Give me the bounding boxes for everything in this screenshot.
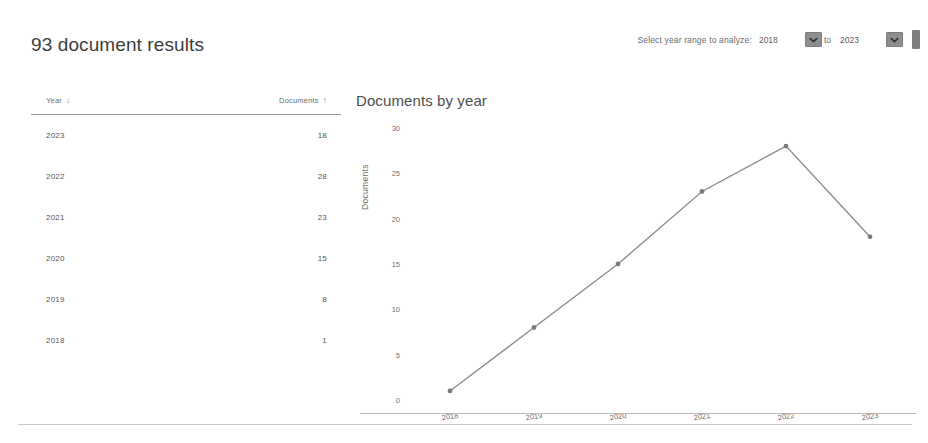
chart-y-tick-label: 5 [396,350,400,359]
table-row[interactable]: 2021 23 [31,197,341,238]
cell-year: 2020 [46,254,65,263]
chart-data-point[interactable] [448,389,453,394]
chart-data-point[interactable] [784,144,789,149]
cell-year: 2021 [46,213,65,222]
cell-documents: 1 [322,336,327,345]
chart-y-axis-label: Documents [360,164,370,210]
table-row[interactable]: 2022 28 [31,156,341,197]
table-row[interactable]: 2023 18 [31,115,341,156]
chart-data-point[interactable] [616,262,621,267]
chart-data-point[interactable] [532,325,537,330]
column-header-documents[interactable]: Documents ↑ [279,96,327,105]
cell-documents: 28 [318,172,327,181]
year-range-selector: Select year range to analyze: 2018 to 20… [637,30,920,49]
year-range-to-label: to [824,35,831,45]
year-range-to-value[interactable]: 2023 [840,35,886,45]
cell-year: 2018 [46,336,65,345]
chart-y-tick-label: 10 [392,305,400,314]
column-header-year-label: Year [46,96,62,105]
column-header-year[interactable]: Year ↓ [46,96,70,105]
chart-title: Documents by year [356,92,487,109]
table-body: 2023 18 2022 28 2021 23 2020 15 2019 8 2… [31,115,341,361]
year-range-from-value[interactable]: 2018 [759,35,805,45]
table-header-row: Year ↓ Documents ↑ [31,96,341,115]
panel-edge-control[interactable] [912,30,920,49]
year-range-label: Select year range to analyze: [637,35,751,45]
sort-ascending-arrow-icon: ↑ [323,97,327,105]
page-title: 93 document results [31,34,204,56]
top-bar: 93 document results Select year range to… [0,0,928,72]
chart-data-point[interactable] [868,234,873,239]
footer-divider [18,424,912,425]
cell-year: 2022 [46,172,65,181]
chart-y-tick-label: 30 [392,124,400,133]
documents-by-year-table: Year ↓ Documents ↑ 2023 18 2022 28 2021 … [31,96,341,361]
table-row[interactable]: 2019 8 [31,279,341,320]
chart-line-path [450,146,870,391]
documents-by-year-chart: Documents by year Documents 051015202530… [356,92,916,422]
table-row[interactable]: 2018 1 [31,320,341,361]
year-range-to-dropdown-button[interactable] [886,32,903,47]
chart-data-point[interactable] [700,189,705,194]
cell-documents: 18 [318,131,327,140]
table-row[interactable]: 2020 15 [31,238,341,279]
year-range-from-dropdown-button[interactable] [805,32,822,47]
cell-year: 2023 [46,131,65,140]
chevron-down-icon [890,37,899,43]
cell-documents: 8 [322,295,327,304]
chart-y-tick-label: 0 [396,396,400,405]
chart-y-tick-label: 15 [392,260,400,269]
sort-descending-arrow-icon: ↓ [66,97,70,105]
cell-year: 2019 [46,295,65,304]
chart-y-tick-label: 25 [392,169,400,178]
cell-documents: 15 [318,254,327,263]
cell-documents: 23 [318,213,327,222]
chart-y-tick-label: 20 [392,214,400,223]
chart-series-line [408,128,912,400]
column-header-documents-label: Documents [279,96,319,105]
chart-x-axis-line [360,413,916,414]
chart-plot-area: 051015202530 201820192020202120222023 [408,128,912,400]
chevron-down-icon [809,37,818,43]
